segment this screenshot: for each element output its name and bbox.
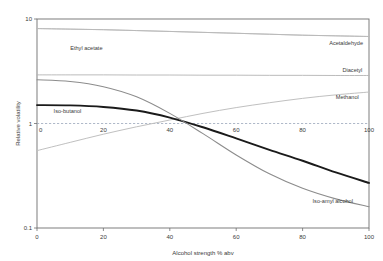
- relative-volatility-line-chart: 0.1110020406080100020406080100Ethyl acet…: [0, 0, 383, 261]
- series-line-diacetyl: [37, 75, 369, 76]
- y-axis-title: Relative volatility: [15, 101, 21, 146]
- secondary-x-tick-label: 80: [299, 127, 306, 133]
- x-tick-label: 40: [166, 234, 173, 240]
- x-axis-title: Alcohol strength % abv: [172, 250, 233, 256]
- secondary-x-tick-label: 100: [364, 127, 375, 133]
- y-tick-label: 1: [29, 121, 33, 127]
- x-tick-label: 0: [35, 234, 39, 240]
- y-tick-label: 10: [25, 16, 32, 22]
- series-label-iso-butanol: Iso-butanol: [54, 108, 82, 114]
- secondary-x-tick-label: 20: [100, 127, 107, 133]
- series-label-ethyl-acetate: Ethyl acetate: [70, 45, 102, 51]
- chart-container: 0.1110020406080100020406080100Ethyl acet…: [0, 0, 383, 261]
- series-line-methanol: [37, 92, 369, 151]
- secondary-x-tick-label: 0: [39, 127, 43, 133]
- y-tick-label: 0.1: [24, 225, 33, 231]
- secondary-x-tick-label: 60: [233, 127, 240, 133]
- series-line-ethyl-acetate: [37, 29, 369, 37]
- series-line-iso-amyl-alcohol: [37, 80, 369, 207]
- x-tick-label: 60: [233, 234, 240, 240]
- series-line-iso-butanol: [37, 105, 369, 183]
- series-label-methanol: Methanol: [336, 94, 359, 100]
- x-tick-label: 80: [299, 234, 306, 240]
- secondary-x-tick-label: 40: [166, 127, 173, 133]
- series-label-iso-amyl-alcohol: Iso-amyl alcohol: [313, 198, 353, 204]
- x-tick-label: 20: [100, 234, 107, 240]
- series-label-acetaldehyde: Acetaldehyde: [329, 40, 363, 46]
- series-label-diacetyl: Diacetyl: [342, 67, 362, 73]
- x-tick-label: 100: [364, 234, 375, 240]
